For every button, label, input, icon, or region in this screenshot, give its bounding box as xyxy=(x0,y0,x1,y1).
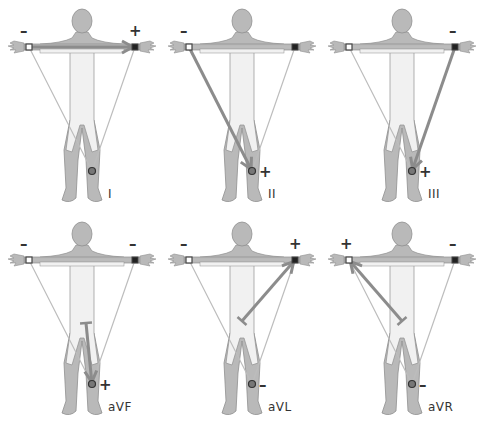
electrode-left-leg xyxy=(409,381,416,388)
lead-label: aVF xyxy=(108,400,132,414)
la-polarity-sign: – xyxy=(449,24,457,39)
panel-lead-III: –+III xyxy=(320,0,480,213)
panel-lead-II: –+II xyxy=(160,0,320,213)
electrode-left-leg xyxy=(409,168,416,175)
head xyxy=(392,222,412,246)
lead-vector xyxy=(413,47,455,169)
electrode-right-arm xyxy=(346,257,352,263)
hand-right xyxy=(328,41,344,53)
torso xyxy=(226,52,258,152)
electrode-left-arm xyxy=(292,44,298,50)
panel-lead-aVF: ––+aVF xyxy=(0,213,160,426)
torso xyxy=(386,265,418,365)
hand-right xyxy=(328,254,344,266)
lead-label: III xyxy=(428,187,440,201)
ra-polarity-sign: – xyxy=(20,237,28,252)
ecg-limb-leads-diagram: –+I –+II –+III ––+aVF –+–aVL +––aVR xyxy=(0,0,482,426)
torso xyxy=(386,52,418,152)
electrode-right-arm xyxy=(26,44,32,50)
electrode-left-leg xyxy=(249,168,256,175)
torso xyxy=(66,265,98,365)
head xyxy=(232,222,252,246)
panel-lead-aVL: –+–aVL xyxy=(160,213,320,426)
lead-label: I xyxy=(108,187,112,201)
electrode-left-arm xyxy=(452,44,458,50)
la-polarity-sign: + xyxy=(129,24,142,39)
panel-lead-I: –+I xyxy=(0,0,160,213)
hand-left xyxy=(300,41,316,53)
lead-label: aVL xyxy=(268,400,292,414)
electrode-left-arm xyxy=(132,44,138,50)
electrode-left-arm xyxy=(452,257,458,263)
ra-polarity-sign: – xyxy=(180,24,188,39)
hand-left xyxy=(300,254,316,266)
ll-polarity-sign: + xyxy=(259,165,272,180)
torso xyxy=(226,265,258,365)
ra-polarity-sign: + xyxy=(340,237,353,252)
electrode-right-arm xyxy=(26,257,32,263)
lead-label: aVR xyxy=(428,400,453,414)
hand-left xyxy=(140,41,156,53)
hand-right xyxy=(8,41,24,53)
hand-right xyxy=(8,254,24,266)
head xyxy=(392,9,412,33)
la-polarity-sign: + xyxy=(289,237,302,252)
ll-polarity-sign: – xyxy=(419,378,427,393)
panel-lead-aVR: +––aVR xyxy=(320,213,480,426)
ra-polarity-sign: – xyxy=(20,24,28,39)
torso xyxy=(66,52,98,152)
ll-polarity-sign: + xyxy=(99,378,112,393)
hand-right xyxy=(168,41,184,53)
lead-label: II xyxy=(268,187,276,201)
electrode-left-leg xyxy=(89,168,96,175)
electrode-left-arm xyxy=(132,257,138,263)
la-polarity-sign: – xyxy=(449,237,457,252)
tbar-icon xyxy=(80,322,92,323)
hand-left xyxy=(460,41,476,53)
ra-polarity-sign: – xyxy=(180,237,188,252)
head xyxy=(72,9,92,33)
la-polarity-sign: – xyxy=(129,237,137,252)
electrode-right-arm xyxy=(186,44,192,50)
electrode-left-leg xyxy=(89,381,96,388)
electrode-right-arm xyxy=(186,257,192,263)
hand-left xyxy=(460,254,476,266)
hand-left xyxy=(140,254,156,266)
electrode-left-leg xyxy=(249,381,256,388)
electrode-left-arm xyxy=(292,257,298,263)
ll-polarity-sign: – xyxy=(259,378,267,393)
ll-polarity-sign: + xyxy=(419,165,432,180)
electrode-right-arm xyxy=(346,44,352,50)
head xyxy=(232,9,252,33)
hand-right xyxy=(168,254,184,266)
head xyxy=(72,222,92,246)
